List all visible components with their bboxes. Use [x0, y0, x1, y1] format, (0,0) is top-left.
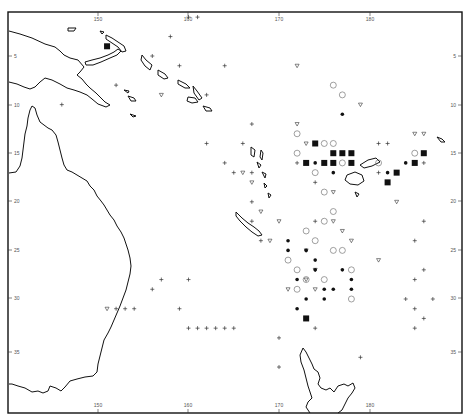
filled-square-marker [348, 150, 354, 156]
longitude-tick-label: 150 [94, 402, 103, 408]
filled-dot-marker [350, 278, 354, 282]
latitude-tick-label: 5 [14, 53, 17, 59]
longitude-tick-label: 170 [275, 402, 284, 408]
filled-dot-marker [313, 268, 317, 272]
latitude-tick-label: 35 [14, 349, 20, 355]
filled-square-marker [321, 160, 327, 166]
filled-dot-marker [313, 161, 317, 165]
filled-dot-marker [322, 287, 326, 291]
latitude-tick-label: 20 [450, 198, 456, 204]
filled-dot-marker [404, 161, 408, 165]
filled-dot-marker [286, 249, 290, 253]
filled-square-marker [104, 43, 110, 49]
map-background [0, 0, 470, 417]
latitude-tick-label: 25 [450, 247, 456, 253]
filled-dot-marker [341, 268, 345, 272]
latitude-tick-label: 20 [14, 198, 20, 204]
longitude-tick-label: 150 [94, 16, 103, 22]
longitude-tick-label: 170 [275, 16, 284, 22]
filled-square-marker [412, 160, 418, 166]
filled-dot-marker [313, 258, 317, 262]
filled-square-marker [303, 315, 309, 321]
filled-dot-marker [341, 113, 345, 117]
filled-square-marker [394, 170, 400, 176]
filled-square-marker [330, 150, 336, 156]
filled-square-marker [348, 160, 354, 166]
filled-square-marker [312, 140, 318, 146]
longitude-tick-label: 160 [184, 402, 193, 408]
filled-square-marker [303, 160, 309, 166]
latitude-tick-label: 10 [14, 102, 20, 108]
filled-square-marker [330, 160, 336, 166]
filled-dot-marker [295, 307, 299, 311]
filled-dot-marker [286, 239, 290, 243]
filled-dot-marker [386, 171, 390, 175]
latitude-tick-label: 5 [453, 53, 456, 59]
filled-dot-marker [295, 278, 299, 282]
longitude-tick-label: 180 [366, 16, 375, 22]
latitude-tick-label: 30 [450, 295, 456, 301]
latitude-tick-label: 25 [14, 247, 20, 253]
longitude-tick-label: 180 [366, 402, 375, 408]
filled-dot-marker [322, 297, 326, 301]
filled-square-marker [339, 150, 345, 156]
latitude-tick-label: 15 [450, 150, 456, 156]
latitude-tick-label: 30 [14, 295, 20, 301]
filled-square-marker [421, 150, 427, 156]
latitude-tick-label: 10 [450, 102, 456, 108]
filled-square-marker [385, 179, 391, 185]
filled-dot-marker [332, 171, 336, 175]
latitude-tick-label: 15 [14, 150, 20, 156]
filled-dot-marker [304, 297, 308, 301]
latitude-tick-label: 35 [450, 349, 456, 355]
filled-dot-marker [350, 287, 354, 291]
filled-dot-marker [304, 249, 308, 253]
map-figure: 1501501601601701701801805510101515202025… [0, 0, 470, 417]
filled-dot-marker [332, 287, 336, 291]
